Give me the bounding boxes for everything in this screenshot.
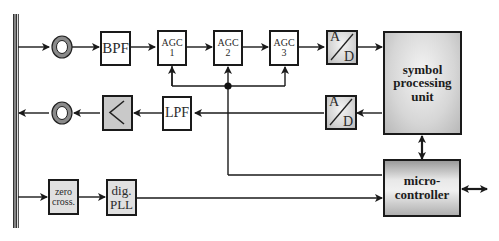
zero-cross-block: zero cross. xyxy=(48,179,79,215)
microcontroller-block: micro- controller xyxy=(383,159,461,217)
lpf-block: LPF xyxy=(162,96,192,131)
spu-label-line3: unit xyxy=(411,90,433,104)
mcu-label-line1: micro- xyxy=(404,174,441,188)
agc2-block: AGC 2 xyxy=(213,30,243,66)
adc-d-label: D xyxy=(344,50,354,65)
dig-pll-line2: PLL xyxy=(110,198,133,212)
dig-pll-block: dig. PLL xyxy=(106,179,137,216)
dig-pll-line1: dig. xyxy=(112,184,132,198)
bus-line xyxy=(13,14,19,228)
agc3-block: AGC 3 xyxy=(269,30,299,66)
ring-coupler-icon xyxy=(52,36,72,58)
agc2-number: 2 xyxy=(226,48,231,59)
symbol-processing-unit-block: symbol processing unit xyxy=(383,31,462,135)
bpf-label: BPF xyxy=(102,41,129,57)
agc1-number: 1 xyxy=(170,48,175,59)
amplifier-block xyxy=(102,95,133,131)
ring-coupler-icon xyxy=(52,102,72,124)
agc3-number: 3 xyxy=(282,48,287,59)
lpf-label: LPF xyxy=(165,106,189,121)
junction-dot xyxy=(224,82,231,89)
adc-a-label: A xyxy=(329,95,339,110)
triangle-amplifier-icon xyxy=(104,97,130,128)
spu-label-line2: processing xyxy=(393,76,451,90)
zero-cross-line2: cross. xyxy=(52,197,75,208)
agc1-block: AGC 1 xyxy=(157,30,187,66)
adc-d-label: D xyxy=(343,115,353,130)
adc-block-upper: A D xyxy=(326,30,358,65)
spu-label-line1: symbol xyxy=(403,63,443,77)
adc-a-label: A xyxy=(330,30,340,45)
bpf-block: BPF xyxy=(100,31,131,66)
adc-block-lower: A D xyxy=(325,95,357,130)
mcu-label-line2: controller xyxy=(395,188,450,202)
